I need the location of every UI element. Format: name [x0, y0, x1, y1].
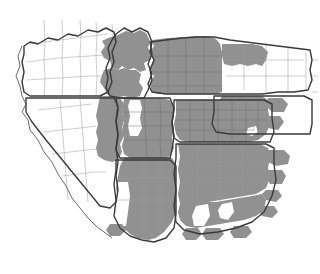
shaded-region-montana-northeast	[222, 44, 268, 66]
shaded-region-colorado	[174, 100, 270, 142]
map-figure	[0, 0, 320, 274]
unshaded-county-utah-notch	[128, 100, 142, 136]
shaded-region-nevada-east	[96, 96, 124, 162]
map-canvas	[0, 0, 320, 274]
shaded-counties-layer	[96, 30, 290, 240]
